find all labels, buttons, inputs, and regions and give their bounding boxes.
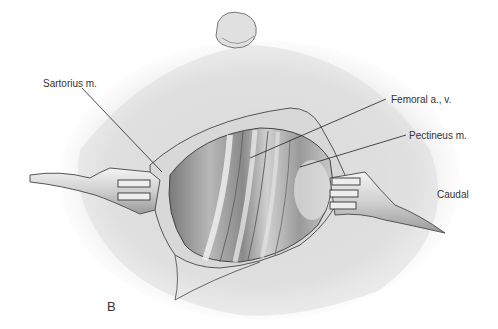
- skin-fold-top: [216, 12, 256, 48]
- label-pectineus: Pectineus m.: [409, 131, 467, 141]
- surgical-illustration: Sartorius m. Femoral a., v. Pectineus m.…: [0, 0, 498, 329]
- label-sartorius: Sartorius m.: [43, 79, 97, 89]
- label-orientation-caudal: Caudal: [437, 190, 469, 200]
- panel-letter: B: [107, 300, 116, 313]
- label-femoral: Femoral a., v.: [391, 95, 451, 105]
- illustration-drawing: [0, 0, 498, 329]
